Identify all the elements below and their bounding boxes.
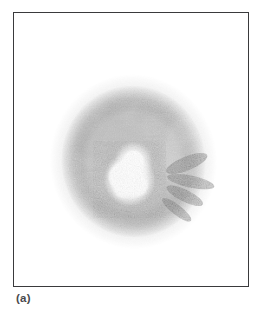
ring-pattern-svg (14, 13, 248, 286)
hole-grain-overlay (105, 155, 153, 205)
panel-caption: (a) (16, 291, 31, 305)
image-plate-frame (13, 12, 249, 287)
figure-panel: (a) (0, 0, 268, 312)
ring-streak-artifacts (14, 13, 248, 286)
ring-pattern-image (14, 13, 248, 286)
